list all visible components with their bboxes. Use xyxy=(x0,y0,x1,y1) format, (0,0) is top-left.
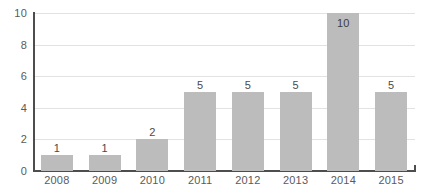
bar-2015[interactable] xyxy=(375,92,407,171)
bar-slot-2014: 10 xyxy=(320,13,368,171)
y-tick-label-8: 8 xyxy=(21,39,27,51)
bar-slot-2015: 5 xyxy=(367,13,415,171)
bar-value-2011: 5 xyxy=(197,79,203,91)
bar-2010[interactable] xyxy=(136,139,168,171)
bar-chart: 0 2 4 6 8 10 1 1 2 5 xyxy=(0,0,428,194)
x-axis-tick-labels: 2008 2009 2010 2011 2012 2013 2014 2015 xyxy=(33,174,415,192)
bar-slot-2009: 1 xyxy=(81,13,129,171)
y-tick-label-2: 2 xyxy=(21,133,27,145)
bar-slot-2010: 2 xyxy=(129,13,177,171)
x-tick-label-2015: 2015 xyxy=(378,174,403,186)
bar-value-2010: 2 xyxy=(149,126,155,138)
x-tick-label-2014: 2014 xyxy=(331,174,356,186)
bar-value-2008: 1 xyxy=(54,142,60,154)
x-tick-label-2013: 2013 xyxy=(283,174,308,186)
x-tick-label-2011: 2011 xyxy=(188,174,212,186)
bar-value-2012: 5 xyxy=(245,79,251,91)
bar-value-2009: 1 xyxy=(101,142,107,154)
bar-value-2014: 10 xyxy=(337,17,350,29)
bar-slot-2008: 1 xyxy=(33,13,81,171)
y-tick-label-4: 4 xyxy=(21,102,27,114)
bar-2014[interactable] xyxy=(327,13,359,171)
bar-slot-2012: 5 xyxy=(224,13,272,171)
y-tick-label-10: 10 xyxy=(14,7,27,19)
y-tick-label-0: 0 xyxy=(21,165,27,177)
y-axis-tick-labels: 0 2 4 6 8 10 xyxy=(0,13,27,171)
bar-slot-2011: 5 xyxy=(176,13,224,171)
bars-layer: 1 1 2 5 5 5 10 5 xyxy=(33,13,415,171)
x-tick-label-2008: 2008 xyxy=(44,174,69,186)
bar-slot-2013: 5 xyxy=(272,13,320,171)
bar-2008[interactable] xyxy=(41,155,73,171)
bar-2013[interactable] xyxy=(280,92,312,171)
x-tick-label-2012: 2012 xyxy=(235,174,260,186)
bar-2012[interactable] xyxy=(232,92,264,171)
x-tick-label-2010: 2010 xyxy=(140,174,165,186)
bar-value-2013: 5 xyxy=(292,79,298,91)
bar-2011[interactable] xyxy=(184,92,216,171)
bar-value-2015: 5 xyxy=(388,79,394,91)
y-tick-label-6: 6 xyxy=(21,70,27,82)
x-tick-label-2009: 2009 xyxy=(92,174,117,186)
bar-2009[interactable] xyxy=(89,155,121,171)
